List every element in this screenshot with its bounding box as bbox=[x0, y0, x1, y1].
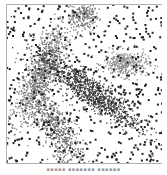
scatter-plot bbox=[6, 4, 162, 164]
figure-caption: ▪▪▪▪▪ ▪▪▪▪▪▪▪ ▪▪▪▪▪▪ bbox=[0, 166, 167, 172]
